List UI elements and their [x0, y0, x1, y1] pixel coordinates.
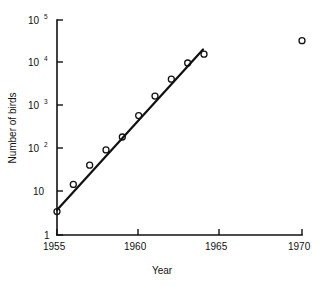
data-point	[168, 76, 174, 82]
data-point	[299, 38, 305, 44]
x-tick-label-1965: 1965	[205, 241, 228, 252]
y-tick-label-1e3-exp: 3	[44, 98, 48, 105]
chart-container: 10 5 10 4 10 3 10 2 10 1 1955 1960 1965 …	[0, 0, 323, 287]
x-tick-label-1960: 1960	[124, 241, 147, 252]
y-tick-label-1e5-exp: 5	[44, 13, 48, 20]
data-point	[152, 93, 158, 99]
y-axis-tick-labels: 10 5 10 4 10 3 10 2 10 1	[28, 13, 50, 241]
y-tick-label-1e3-base: 10	[28, 100, 40, 111]
data-point	[136, 113, 142, 119]
x-tick-label-1970: 1970	[288, 241, 311, 252]
y-tick-label-1e5-base: 10	[28, 15, 40, 26]
data-point	[87, 162, 93, 168]
y-tick-label-1e2-exp: 2	[44, 141, 48, 148]
data-point	[70, 181, 76, 187]
y-tick-label-10: 10	[33, 186, 45, 197]
y-tick-label-1e2-base: 10	[28, 143, 40, 154]
y-tick-label-1e4-base: 10	[28, 57, 40, 68]
y-tick-label-1: 1	[44, 230, 50, 241]
data-point-markers	[54, 38, 305, 215]
trend-line	[57, 50, 203, 210]
data-point	[201, 51, 207, 57]
x-axis-ticks	[57, 229, 302, 235]
x-tick-label-1955: 1955	[43, 241, 66, 252]
data-point	[103, 147, 109, 153]
x-axis-tick-labels: 1955 1960 1965 1970	[43, 241, 311, 252]
x-axis-title: Year	[152, 265, 173, 276]
y-axis-title: Number of birds	[7, 92, 18, 163]
y-tick-label-1e4-exp: 4	[44, 55, 48, 62]
bird-population-log-plot: 10 5 10 4 10 3 10 2 10 1 1955 1960 1965 …	[0, 0, 323, 287]
